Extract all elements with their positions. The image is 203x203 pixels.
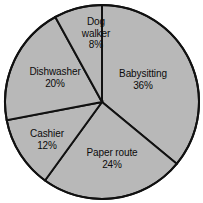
pie-chart-canvas <box>0 0 203 203</box>
pie-chart: Babysitting36%Paper route24%Cashier12%Di… <box>0 0 203 203</box>
